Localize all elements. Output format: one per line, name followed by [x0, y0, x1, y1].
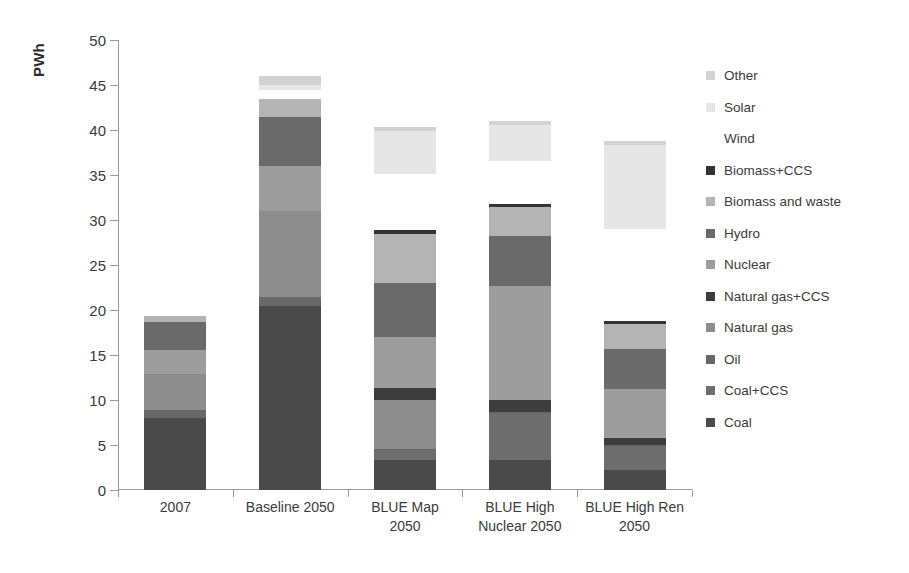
bar-segment: [604, 145, 666, 229]
bar-segment: [489, 207, 551, 236]
bar-segment: [259, 76, 321, 85]
y-tick-label: 25: [89, 257, 106, 274]
legend-item[interactable]: Wind: [706, 123, 906, 155]
bar-segment: [489, 414, 551, 461]
legend-item[interactable]: Biomass+CCS: [706, 155, 906, 187]
legend-item-label: Natural gas+CCS: [724, 289, 829, 304]
x-tick: [348, 490, 349, 497]
y-tick-label: 40: [89, 122, 106, 139]
bar-segment: [374, 337, 436, 388]
y-tick: [110, 220, 118, 221]
legend-swatch-icon: [706, 71, 715, 80]
y-tick: [110, 445, 118, 446]
x-tick: [692, 490, 693, 497]
stacked-bar: [259, 76, 321, 490]
x-axis-labels: 2007Baseline 2050BLUE Map 2050BLUE High …: [118, 498, 692, 558]
bar-segment: [489, 286, 551, 400]
x-tick: [118, 490, 119, 497]
legend-item[interactable]: Solar: [706, 92, 906, 124]
legend-swatch-icon: [706, 323, 715, 332]
y-tick-label: 30: [89, 212, 106, 229]
legend-item[interactable]: Oil: [706, 344, 906, 376]
legend-item[interactable]: Biomass and waste: [706, 186, 906, 218]
bar-segment: [144, 418, 206, 490]
legend-item-label: Other: [724, 68, 758, 83]
bar-segment: [604, 229, 666, 321]
y-tick: [110, 490, 118, 491]
legend-item[interactable]: Coal+CCS: [706, 375, 906, 407]
y-tick: [110, 85, 118, 86]
x-tick: [577, 490, 578, 497]
bar-segment: [144, 350, 206, 374]
bar-segment: [144, 374, 206, 410]
bar-segment: [489, 161, 551, 204]
x-tick-label: BLUE High Ren 2050: [562, 498, 707, 536]
legend-item-label: Oil: [724, 352, 741, 367]
bar-segment: [259, 211, 321, 297]
legend-item-label: Coal: [724, 415, 752, 430]
bar-segment: [489, 460, 551, 490]
legend-swatch-icon: [706, 386, 715, 395]
bar-segment: [144, 410, 206, 418]
bar-segment: [604, 470, 666, 490]
legend-item-label: Biomass+CCS: [724, 163, 812, 178]
bar-segment: [374, 234, 436, 284]
y-tick: [110, 130, 118, 131]
legend-item-label: Wind: [724, 131, 755, 146]
bar-segment: [604, 324, 666, 349]
bar-segment: [144, 322, 206, 350]
bar-segment: [604, 447, 666, 470]
bar-segment: [604, 349, 666, 390]
bar-segment: [604, 389, 666, 438]
legend-item[interactable]: Hydro: [706, 218, 906, 250]
bar-segment: [489, 400, 551, 412]
bar-segment: [259, 90, 321, 98]
legend-swatch-icon: [706, 166, 715, 175]
y-tick: [110, 265, 118, 266]
legend-swatch-icon: [706, 197, 715, 206]
chart-legend: OtherSolarWindBiomass+CCSBiomass and was…: [706, 60, 906, 438]
y-tick: [110, 355, 118, 356]
bar-segment: [374, 388, 436, 400]
bar-segment: [374, 460, 436, 490]
y-tick-label: 15: [89, 347, 106, 364]
legend-swatch-icon: [706, 355, 715, 364]
y-tick: [110, 40, 118, 41]
legend-item-label: Hydro: [724, 226, 760, 241]
y-tick-label: 0: [98, 482, 106, 499]
bar-segment: [604, 438, 666, 445]
x-tick: [462, 490, 463, 497]
bar-segment: [259, 166, 321, 211]
stacked-bar: [374, 127, 436, 490]
plot-area: 05101520253035404550: [118, 40, 692, 490]
stacked-bar: [489, 121, 551, 490]
bar-segment: [374, 450, 436, 460]
bar-segment: [259, 297, 321, 306]
y-tick: [110, 175, 118, 176]
chart-root: PWh 05101520253035404550 2007Baseline 20…: [0, 0, 909, 573]
y-tick: [110, 310, 118, 311]
y-tick-label: 20: [89, 302, 106, 319]
legend-item[interactable]: Nuclear: [706, 249, 906, 281]
bar-segment: [259, 99, 321, 117]
y-tick-label: 35: [89, 167, 106, 184]
bar-segment: [489, 125, 551, 161]
legend-item-label: Biomass and waste: [724, 194, 841, 209]
stacked-bar: [604, 141, 666, 490]
bar-segment: [374, 283, 436, 337]
legend-item-label: Nuclear: [724, 257, 771, 272]
y-tick-label: 5: [98, 437, 106, 454]
legend-item[interactable]: Other: [706, 60, 906, 92]
y-tick-label: 50: [89, 32, 106, 49]
y-tick: [110, 400, 118, 401]
legend-item[interactable]: Natural gas+CCS: [706, 281, 906, 313]
legend-item[interactable]: Natural gas: [706, 312, 906, 344]
x-tick: [233, 490, 234, 497]
legend-item-label: Natural gas: [724, 320, 793, 335]
legend-swatch-icon: [706, 260, 715, 269]
legend-swatch-icon: [706, 229, 715, 238]
y-tick-label: 45: [89, 77, 106, 94]
legend-item[interactable]: Coal: [706, 407, 906, 439]
legend-swatch-icon: [706, 292, 715, 301]
bar-segment: [374, 131, 436, 174]
